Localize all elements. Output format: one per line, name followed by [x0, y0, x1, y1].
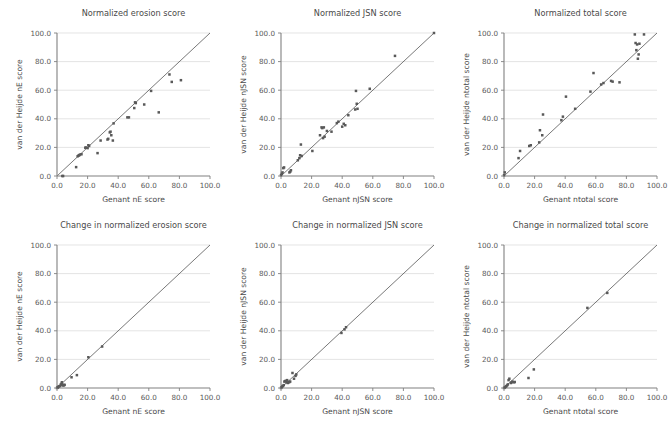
- y-tick-label: 20.0: [259, 143, 275, 152]
- data-point: [112, 122, 115, 125]
- y-axis-label: van der Heijde ntotal score: [462, 264, 471, 367]
- data-point: [354, 108, 357, 111]
- data-point: [518, 157, 521, 160]
- x-axis-label: Genant nE score: [102, 195, 165, 204]
- x-tick-label: 80.0: [395, 393, 411, 402]
- y-tick-label: 80.0: [259, 57, 275, 66]
- data-point: [341, 125, 344, 128]
- data-points: [61, 73, 182, 177]
- data-point: [171, 81, 174, 84]
- x-tick-label: 100.0: [423, 393, 444, 402]
- data-point: [562, 115, 565, 118]
- chart-panel-2: Normalized JSN score0.00.020.020.040.040…: [224, 0, 447, 211]
- data-point: [99, 139, 102, 142]
- gridlines: [281, 33, 434, 147]
- data-point: [133, 107, 136, 110]
- x-tick-label: 0.0: [275, 181, 287, 190]
- y-tick-label: 100.0: [478, 29, 499, 38]
- x-tick-label: 40.0: [558, 181, 574, 190]
- gridlines: [57, 33, 210, 147]
- data-point: [289, 169, 292, 172]
- data-point: [300, 155, 303, 158]
- y-tick-label: 60.0: [259, 86, 275, 95]
- gridlines: [57, 245, 210, 359]
- x-tick-label: 0.0: [51, 393, 63, 402]
- y-tick-label: 20.0: [35, 355, 51, 364]
- data-point: [340, 331, 343, 334]
- data-point: [63, 383, 66, 386]
- y-tick-label: 80.0: [35, 57, 51, 66]
- data-point: [347, 114, 350, 117]
- chart-panel-1: Normalized erosion score0.00.020.020.040…: [0, 0, 223, 211]
- tick-labels: 0.00.020.020.040.040.060.060.080.080.010…: [254, 29, 444, 190]
- data-point: [603, 82, 606, 85]
- data-point: [143, 103, 146, 106]
- x-tick-label: 60.0: [364, 181, 380, 190]
- x-tick-label: 80.0: [171, 181, 187, 190]
- data-point: [637, 57, 640, 60]
- tick-labels: 0.00.020.020.040.040.060.060.080.080.010…: [30, 29, 220, 190]
- data-point: [62, 175, 64, 178]
- identity-reference-line: [504, 33, 657, 176]
- y-tick-label: 0.0: [40, 383, 52, 392]
- data-point: [612, 80, 615, 83]
- y-tick-label: 80.0: [482, 57, 498, 66]
- x-tick-label: 20.0: [527, 393, 543, 402]
- x-tick-label: 60.0: [588, 393, 604, 402]
- tick-labels: 0.00.020.020.040.040.060.060.080.080.010…: [478, 240, 668, 401]
- chart-title: Change in normalized total score: [513, 220, 648, 230]
- y-tick-label: 100.0: [30, 29, 51, 38]
- chart-panel-6: Change in normalized total score0.00.020…: [447, 212, 670, 423]
- data-point: [311, 150, 314, 153]
- data-point: [560, 119, 563, 122]
- y-tick-label: 40.0: [35, 114, 51, 123]
- data-point: [606, 291, 609, 294]
- x-tick-label: 80.0: [619, 181, 635, 190]
- data-point: [282, 383, 285, 386]
- x-tick-label: 20.0: [303, 393, 319, 402]
- data-point: [344, 325, 347, 328]
- data-point: [519, 150, 522, 153]
- y-tick-label: 60.0: [35, 86, 51, 95]
- data-point: [356, 108, 359, 111]
- x-axis-label: Genant ntotal score: [543, 195, 619, 204]
- y-axis-label: van der Heijde nE score: [15, 271, 24, 362]
- data-point: [638, 53, 641, 56]
- x-tick-label: 0.0: [499, 393, 511, 402]
- y-axis-label: van der Heijde nJSN score: [239, 55, 248, 154]
- y-tick-label: 100.0: [478, 240, 499, 249]
- data-point: [128, 116, 131, 119]
- data-point: [330, 130, 333, 133]
- y-tick-label: 80.0: [482, 269, 498, 278]
- data-point: [325, 130, 328, 133]
- y-tick-label: 100.0: [254, 240, 275, 249]
- data-point: [565, 95, 568, 98]
- data-point: [86, 147, 89, 150]
- data-point: [291, 371, 294, 374]
- data-point: [393, 55, 396, 58]
- y-tick-label: 20.0: [482, 355, 498, 364]
- y-tick-label: 40.0: [482, 114, 498, 123]
- data-point: [354, 90, 357, 93]
- data-point: [87, 356, 90, 359]
- x-tick-label: 0.0: [51, 181, 63, 190]
- data-points: [503, 33, 645, 176]
- gridlines: [504, 33, 657, 147]
- data-point: [101, 345, 104, 348]
- y-tick-label: 60.0: [35, 297, 51, 306]
- y-axis-label: van der Heijde nJSN score: [239, 267, 248, 366]
- identity-reference-line: [504, 245, 657, 388]
- data-point: [530, 144, 533, 147]
- data-point: [286, 378, 289, 381]
- tick-labels: 0.00.020.020.040.040.060.060.080.080.010…: [478, 29, 668, 190]
- identity-reference-line: [57, 245, 210, 388]
- x-tick-label: 20.0: [303, 181, 319, 190]
- data-point: [281, 171, 284, 174]
- x-tick-label: 80.0: [395, 181, 411, 190]
- y-tick-label: 100.0: [30, 240, 51, 249]
- data-point: [635, 49, 638, 52]
- figure-grid: Normalized erosion score0.00.020.020.040…: [0, 0, 671, 423]
- data-point: [574, 108, 577, 111]
- y-tick-label: 20.0: [35, 143, 51, 152]
- data-point: [289, 380, 292, 383]
